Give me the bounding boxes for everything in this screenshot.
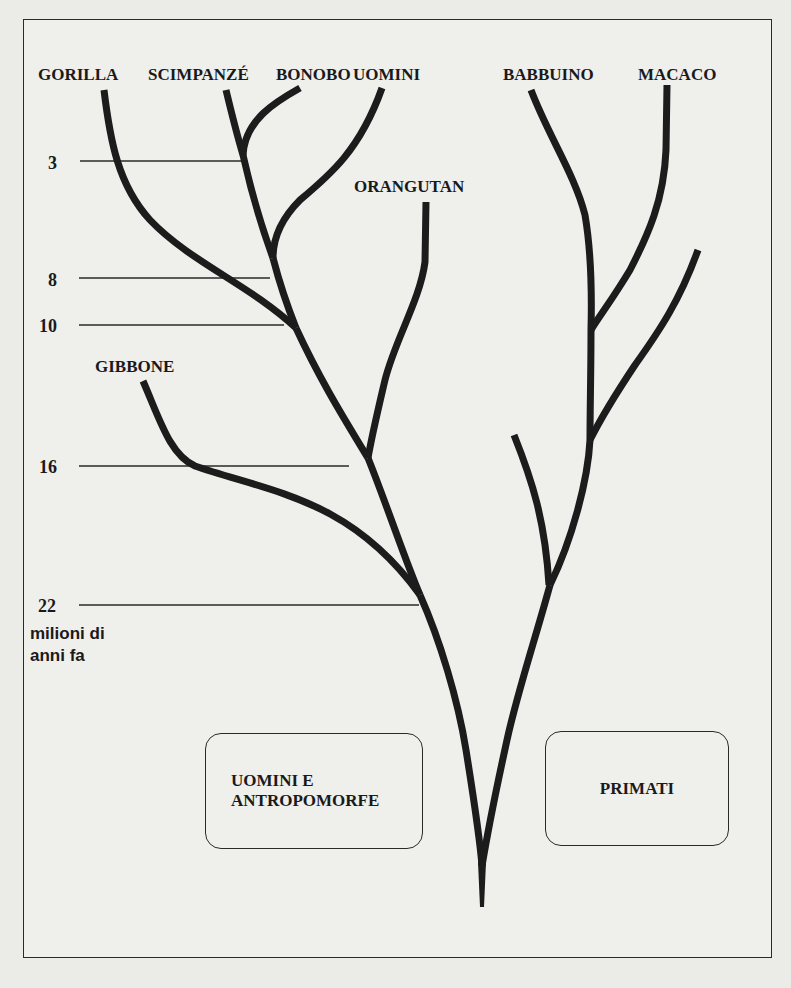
branch-macaque xyxy=(591,85,667,330)
branch-african-stem xyxy=(296,328,368,458)
time-unit-line2: anni fa xyxy=(30,645,85,667)
label-gorilla: GORILLA xyxy=(38,66,118,83)
label-chimpanzee: SCIMPANZÉ xyxy=(148,66,249,83)
group-primates-label: PRIMATI xyxy=(600,779,674,799)
tick-16: 16 xyxy=(39,458,57,476)
branch-right-stem-upper xyxy=(550,440,590,585)
branch-bonobo xyxy=(243,88,300,155)
branch-orangutan xyxy=(368,202,426,458)
branch-gorilla xyxy=(104,90,296,328)
branch-right-4 xyxy=(514,435,549,585)
label-orangutan: ORANGUTAN xyxy=(354,178,464,195)
branch-primate-trunk xyxy=(482,585,550,866)
time-unit-line1: milioni di xyxy=(30,623,105,645)
group-apes-line1: UOMINI E xyxy=(231,771,379,791)
tick-3: 3 xyxy=(48,154,57,172)
tick-22: 22 xyxy=(38,597,56,615)
branch-right-3 xyxy=(590,250,698,440)
root-stem xyxy=(478,862,486,907)
label-macaque: MACACO xyxy=(638,66,716,83)
label-gibbon: GIBBONE xyxy=(95,358,174,375)
group-box-primates: PRIMATI xyxy=(545,731,729,846)
label-bonobo: BONOBO xyxy=(276,66,351,83)
group-apes-line2: ANTROPOMORFE xyxy=(231,791,379,811)
tick-10: 10 xyxy=(39,317,57,335)
branch-baboon-stem xyxy=(590,330,591,440)
branch-baboon xyxy=(531,90,591,330)
branch-great-ape-stem xyxy=(368,458,420,595)
branch-human xyxy=(273,88,382,258)
group-box-apes: UOMINI E ANTROPOMORFE xyxy=(205,733,423,849)
label-human: UOMINI xyxy=(353,66,420,83)
label-baboon: BABBUINO xyxy=(503,66,594,83)
tick-8: 8 xyxy=(48,271,57,289)
branch-ape-trunk xyxy=(420,595,482,866)
